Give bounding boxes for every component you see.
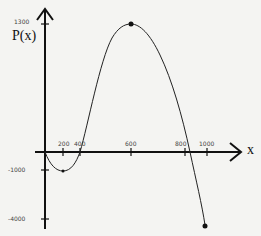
x-axis-label: x [247,142,254,158]
x-tick-200: 200 [58,140,69,147]
polynomial-curve [45,24,205,225]
x-tick-600: 600 [125,140,136,147]
min-point [62,170,65,173]
y-tick-1300: 1300 [14,18,29,25]
y-tick-neg4000: -4000 [8,215,25,222]
graph-canvas [0,0,261,236]
x-tick-400: 400 [74,140,85,147]
y-axis-label: P(x) [12,28,36,44]
x-tick-800: 800 [175,140,186,147]
end-point [203,224,208,229]
max-point [129,22,134,27]
y-tick-neg1000: -1000 [8,166,25,173]
x-tick-1000: 1000 [199,140,214,147]
